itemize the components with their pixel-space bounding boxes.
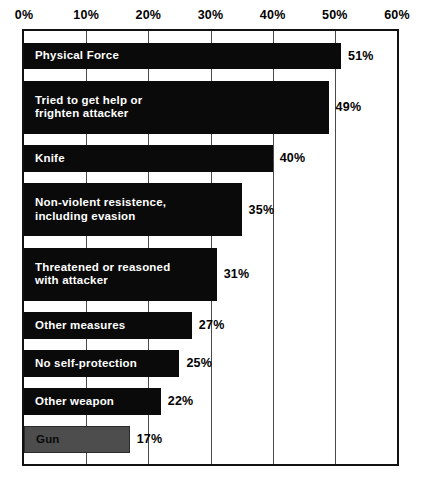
x-axis-tick-label: 30% (198, 8, 224, 22)
bar: Gun (24, 426, 130, 453)
bar-row: Other weapon22% (24, 388, 397, 415)
bar: Physical Force (24, 43, 341, 70)
bar-row: Tried to get help or frighten attacker49… (24, 81, 397, 134)
bar-row: Gun17% (24, 426, 397, 453)
bar: Non-violent resistence, including evasio… (24, 183, 242, 236)
x-axis-top: 0%10%20%30%40%50%60% (0, 8, 422, 26)
bar-value-label: 49% (336, 100, 362, 114)
bar-row: Physical Force51% (24, 43, 397, 70)
bar: Other measures (24, 312, 192, 339)
bar-row: No self-protection25% (24, 350, 397, 377)
bar: Tried to get help or frighten attacker (24, 81, 329, 134)
bar: Other weapon (24, 388, 161, 415)
bar-row: Knife40% (24, 145, 397, 172)
bar-category-label: No self-protection (35, 357, 137, 371)
bars-layer: Physical Force51%Tried to get help or fr… (24, 31, 397, 464)
bar-row: Other measures27% (24, 312, 397, 339)
x-axis-tick-label: 50% (322, 8, 348, 22)
bar-value-label: 17% (137, 432, 163, 446)
bar-category-label: Tried to get help or frighten attacker (35, 94, 143, 121)
bar-value-label: 22% (168, 394, 194, 408)
bar-category-label: Knife (35, 152, 65, 166)
bar-category-label: Other weapon (35, 395, 114, 409)
x-axis-tick-label: 40% (260, 8, 286, 22)
bar-category-label: Other measures (35, 319, 125, 333)
plot-area: Physical Force51%Tried to get help or fr… (22, 29, 399, 466)
bar-value-label: 31% (224, 267, 250, 281)
bar: No self-protection (24, 350, 179, 377)
bar-value-label: 51% (348, 49, 374, 63)
bar-value-label: 27% (199, 318, 225, 332)
bar-category-label: Non-violent resistence, including evasio… (35, 196, 166, 223)
bar: Knife (24, 145, 273, 172)
bar-value-label: 25% (186, 356, 212, 370)
bar-category-label: Threatened or reasoned with attacker (35, 261, 170, 288)
bar-category-label: Physical Force (35, 49, 119, 63)
x-axis-tick-label: 20% (136, 8, 162, 22)
bar-row: Threatened or reasoned with attacker31% (24, 248, 397, 301)
bar: Threatened or reasoned with attacker (24, 248, 217, 301)
bar-row: Non-violent resistence, including evasio… (24, 183, 397, 236)
bar-category-label: Gun (36, 433, 60, 447)
x-axis-tick-label: 10% (73, 8, 99, 22)
x-axis-tick-label: 0% (15, 8, 33, 22)
bar-chart: 0%10%20%30%40%50%60% Physical Force51%Tr… (0, 0, 422, 490)
bar-value-label: 40% (280, 151, 306, 165)
x-axis-tick-label: 60% (384, 8, 410, 22)
bar-value-label: 35% (249, 203, 275, 217)
